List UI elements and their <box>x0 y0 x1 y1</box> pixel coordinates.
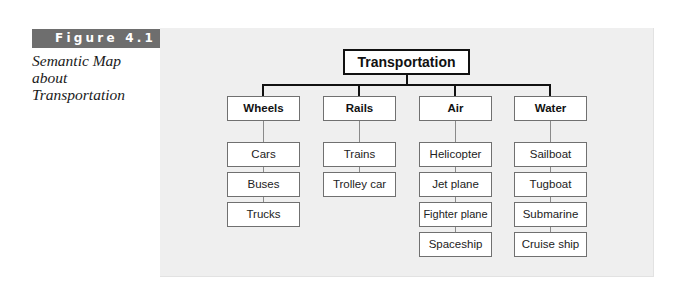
figure-number-label: Figure 4.1 <box>32 29 160 48</box>
connector <box>549 84 551 96</box>
category-air: Air <box>419 96 492 121</box>
item-tugboat: Tugboat <box>514 172 587 197</box>
figure-caption: Semantic Map about Transportation <box>32 52 157 103</box>
root-node: Transportation <box>343 49 470 75</box>
connector <box>262 84 264 96</box>
item-submarine: Submarine <box>514 202 587 227</box>
item-cruise-ship: Cruise ship <box>514 232 587 257</box>
item-helicopter: Helicopter <box>419 142 492 167</box>
connector <box>454 84 456 96</box>
item-jet-plane: Jet plane <box>419 172 492 197</box>
category-wheels: Wheels <box>227 96 300 121</box>
connector <box>358 84 360 96</box>
item-trolley-car: Trolley car <box>323 172 396 197</box>
item-trains: Trains <box>323 142 396 167</box>
item-sailboat: Sailboat <box>514 142 587 167</box>
category-rails: Rails <box>323 96 396 121</box>
category-water: Water <box>514 96 587 121</box>
item-trucks: Trucks <box>227 202 300 227</box>
item-fighter-plane: Fighter plane <box>419 202 492 227</box>
item-buses: Buses <box>227 172 300 197</box>
item-cars: Cars <box>227 142 300 167</box>
connector <box>262 84 551 86</box>
item-spaceship: Spaceship <box>419 232 492 257</box>
